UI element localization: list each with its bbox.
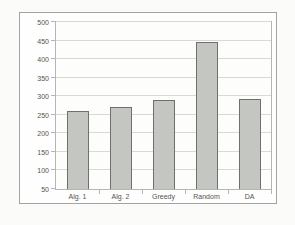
y-tick-mark-450: [51, 40, 55, 41]
bar-random: [196, 42, 218, 189]
gridline-450: [56, 40, 271, 41]
gridline-300: [56, 95, 271, 96]
bar-da: [239, 99, 261, 189]
chart-canvas: 50100150200250300350400450500 Alg. 1Alg.…: [0, 0, 295, 225]
y-tick-mark-250: [51, 114, 55, 115]
y-tick-label-350: 350: [37, 74, 49, 81]
y-tick-label-50: 50: [41, 186, 49, 193]
y-tick-mark-500: [51, 21, 55, 22]
y-tick-mark-150: [51, 151, 55, 152]
x-category-label-random: Random: [193, 193, 219, 200]
x-category-label-greedy: Greedy: [152, 193, 175, 200]
y-tick-label-250: 250: [37, 111, 49, 118]
bar-greedy: [153, 100, 175, 189]
y-tick-label-400: 400: [37, 56, 49, 63]
y-tick-label-200: 200: [37, 130, 49, 137]
x-category-label-alg-2: Alg. 2: [112, 193, 130, 200]
y-tick-label-450: 450: [37, 37, 49, 44]
y-tick-mark-50: [51, 188, 55, 189]
gridline-500: [56, 21, 271, 22]
y-tick-mark-200: [51, 132, 55, 133]
bar-alg-2: [110, 107, 132, 189]
x-tick-mark-2: [142, 190, 143, 194]
y-tick-mark-350: [51, 77, 55, 78]
x-category-label-da: DA: [245, 193, 255, 200]
bar-alg-1: [67, 111, 89, 189]
y-tick-mark-400: [51, 58, 55, 59]
y-tick-label-300: 300: [37, 93, 49, 100]
gridline-400: [56, 58, 271, 59]
y-tick-mark-300: [51, 95, 55, 96]
x-tick-mark-4: [228, 190, 229, 194]
y-tick-mark-100: [51, 169, 55, 170]
gridline-350: [56, 77, 271, 78]
x-category-label-alg-1: Alg. 1: [69, 193, 87, 200]
x-tick-mark-1: [99, 190, 100, 194]
y-tick-label-500: 500: [37, 19, 49, 26]
x-tick-mark-3: [185, 190, 186, 194]
y-tick-label-100: 100: [37, 167, 49, 174]
y-tick-label-150: 150: [37, 148, 49, 155]
plot-area: 50100150200250300350400450500 Alg. 1Alg.…: [55, 21, 272, 190]
x-tick-mark-5: [271, 190, 272, 194]
